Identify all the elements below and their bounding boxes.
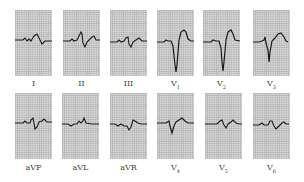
ecg-trace-lead-i (15, 10, 52, 76)
ecg-trace-lead-v3 (253, 10, 290, 76)
lead-label-v4: V4 (157, 163, 194, 174)
ecg-trace-lead-v4 (157, 93, 194, 159)
ecg-panel-lead-v1 (157, 10, 194, 76)
ecg-trace-lead-avr (110, 93, 147, 159)
ecg-trace-lead-v2 (203, 10, 240, 76)
ecg-trace-lead-v5 (205, 93, 242, 159)
lead-label-v2: V2 (203, 79, 240, 90)
ecg-trace-lead-v6 (253, 93, 290, 159)
lead-label-i: I (15, 79, 52, 90)
ecg-panel-lead-i (15, 10, 52, 76)
ecg-trace-lead-ii (63, 10, 100, 76)
ecg-trace-lead-iii (110, 10, 147, 76)
lead-label-avl: aVL (62, 163, 99, 174)
lead-label-avf: aVF (15, 163, 52, 174)
ecg-panel-lead-v5 (205, 93, 242, 159)
ecg-panel-lead-v6 (253, 93, 290, 159)
ecg-panel-lead-avl (62, 93, 99, 159)
lead-label-v5: V5 (205, 163, 242, 174)
ecg-panel-lead-ii (63, 10, 100, 76)
lead-label-iii: III (110, 79, 147, 90)
lead-label-ii: II (63, 79, 100, 90)
lead-label-v1: V1 (157, 79, 194, 90)
ecg-panel-lead-v2 (203, 10, 240, 76)
lead-label-v3: V3 (253, 79, 290, 90)
ecg-panel-lead-v4 (157, 93, 194, 159)
ecg-trace-lead-v1 (157, 10, 194, 76)
lead-label-v6: V6 (253, 163, 290, 174)
ecg-panel-lead-v3 (253, 10, 290, 76)
ecg-panel-lead-avf (15, 93, 52, 159)
ecg-trace-lead-avl (62, 93, 99, 159)
ecg-panel-lead-avr (110, 93, 147, 159)
lead-label-avr: aVR (110, 163, 147, 174)
ecg-trace-lead-avf (15, 93, 52, 159)
ecg-panel-lead-iii (110, 10, 147, 76)
